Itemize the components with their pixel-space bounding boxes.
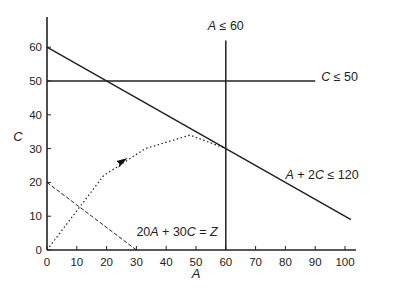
x-tick-label: 20 — [100, 256, 113, 268]
x-tick-label: 70 — [249, 256, 262, 268]
x-tick-label: 30 — [130, 256, 143, 268]
y-tick-label: 10 — [29, 210, 42, 222]
x-tick-label: 40 — [160, 256, 173, 268]
y-axis-title: C — [13, 129, 23, 144]
constraint-label: 20A + 30C = Z — [136, 225, 218, 239]
x-tick-label: 100 — [335, 256, 354, 268]
constraint-label: C ≤ 50 — [321, 70, 358, 84]
x-tick-label: 90 — [309, 256, 322, 268]
y-tick-label: 20 — [29, 176, 42, 188]
direction-arrow-icon — [117, 158, 128, 168]
axis-ticks — [47, 17, 356, 250]
y-tick-label: 40 — [29, 109, 42, 121]
x-tick-label: 10 — [70, 256, 83, 268]
lp-feasible-region-chart: 01020304050607080901000102030405060ACA ≤… — [0, 0, 397, 293]
series-line — [47, 47, 351, 219]
x-axis-title: A — [191, 266, 201, 281]
y-tick-label: 0 — [36, 244, 42, 256]
x-tick-label: 80 — [279, 256, 292, 268]
chart-labels: 01020304050607080901000102030405060ACA ≤… — [13, 19, 358, 281]
constraint-label: A + 2C ≤ 120 — [284, 168, 358, 182]
constraint-lines — [47, 40, 351, 250]
constraint-label: A ≤ 60 — [207, 19, 244, 33]
x-tick-label: 60 — [219, 256, 232, 268]
y-tick-label: 50 — [29, 75, 42, 87]
x-tick-label: 0 — [44, 256, 50, 268]
y-tick-label: 60 — [29, 41, 42, 53]
series-line — [47, 182, 136, 250]
y-tick-label: 30 — [29, 143, 42, 155]
